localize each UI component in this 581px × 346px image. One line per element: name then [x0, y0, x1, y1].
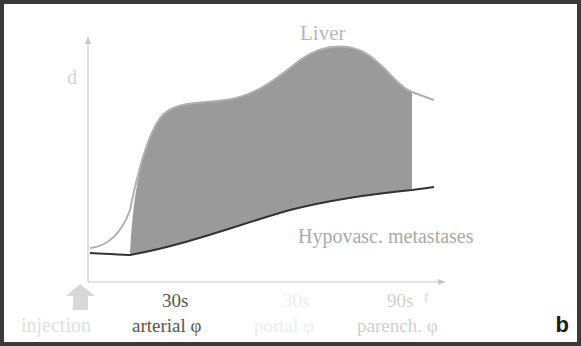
- liver-label: Liver: [300, 21, 345, 45]
- y-axis-arrow-icon: [85, 36, 91, 44]
- y-axis-label: d: [67, 66, 77, 88]
- up-arrow-icon: [66, 284, 95, 310]
- phase-label-parenchymal: parench. φ: [357, 315, 438, 336]
- x-axis-label: t: [424, 287, 430, 306]
- x-axis-arrow-icon: [438, 279, 446, 285]
- injection-label: injection: [21, 314, 91, 337]
- phase-label-arterial: arterial φ: [132, 315, 202, 336]
- contrast-enhancement-diagram: d Liver Hypovasc. metastases injection 3…: [0, 0, 581, 346]
- enhancement-difference-area: [130, 47, 412, 256]
- time-mark-parenchymal: 90s: [387, 290, 413, 311]
- x-axis: [88, 279, 446, 285]
- panel-label: b: [556, 312, 569, 338]
- y-axis: [85, 36, 91, 282]
- time-mark-arterial: 30s: [162, 290, 188, 311]
- time-mark-portal: 30s: [283, 290, 309, 311]
- metastases-label: Hypovasc. metastases: [298, 225, 474, 248]
- phase-label-portal: portal φ: [254, 315, 314, 336]
